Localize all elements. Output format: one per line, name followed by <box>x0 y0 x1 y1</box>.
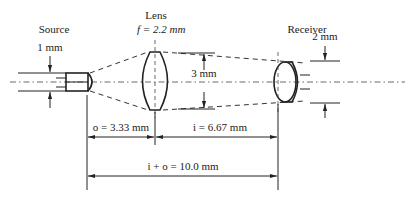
receiver-size-label: 2 mm <box>312 30 338 42</box>
total-distance-label: i + o = 10.0 mm <box>147 160 219 172</box>
lens-focal-label: f = 2.2 mm <box>137 23 185 35</box>
lens-label: Lens <box>145 9 166 21</box>
source-label: Source <box>39 23 70 35</box>
source-size-label: 1 mm <box>37 41 63 53</box>
object-distance-label: o = 3.33 mm <box>93 121 150 133</box>
lens-shape <box>143 52 168 110</box>
ray-top-in <box>90 52 148 73</box>
receiver-shape <box>274 52 310 112</box>
image-distance-label: i = 6.67 mm <box>193 121 247 133</box>
optical-diagram: Source Lens f = 2.2 mm Receiver 1 mm 3 m… <box>0 0 413 202</box>
aperture-label: 3 mm <box>191 67 217 79</box>
ray-bottom-in <box>90 91 148 110</box>
